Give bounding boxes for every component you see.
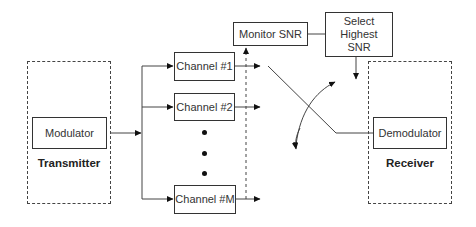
ellipsis-dot [202,151,207,156]
channel-m-label: Channel #M [175,193,234,206]
receiver-label: Receiver [368,157,452,169]
selector-label-line-2: Highest [340,28,377,41]
channel-1-box: Channel #1 [174,52,235,81]
modulator-box: Modulator [32,117,107,149]
ellipsis-dot [202,130,207,135]
monitor-snr-label: Monitor SNR [239,28,302,41]
demodulator-box: Demodulator [373,117,447,149]
selector-label-line-1: Select [344,15,375,28]
modulator-label: Modulator [45,127,94,140]
channel-1-label: Channel #1 [176,60,232,73]
channel-m-box: Channel #M [174,185,236,214]
select-highest-snr-box: Select Highest SNR [325,12,393,57]
channel-2-label: Channel #2 [176,101,232,114]
channel-2-box: Channel #2 [174,93,235,121]
transmitter-label: Transmitter [27,157,111,169]
selector-label-line-3: SNR [347,41,370,54]
ellipsis-dot [202,171,207,176]
demodulator-label: Demodulator [379,127,442,140]
monitor-snr-box: Monitor SNR [233,22,308,46]
